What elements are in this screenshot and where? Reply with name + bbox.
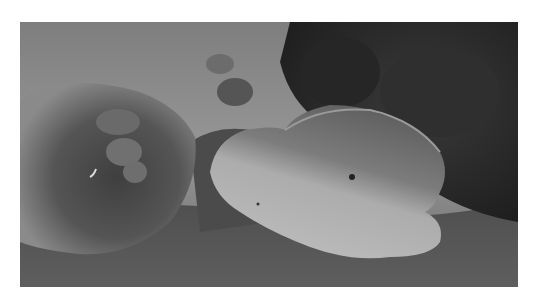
underwater-coral-photo <box>20 22 518 287</box>
coral-scene <box>20 22 518 287</box>
